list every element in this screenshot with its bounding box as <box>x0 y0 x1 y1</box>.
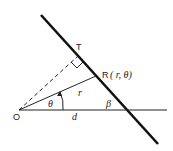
label-d: d <box>72 111 78 122</box>
label-beta: β <box>105 98 111 109</box>
label-theta: θ <box>48 98 53 109</box>
right-angle-marker <box>71 62 83 68</box>
label-T: T <box>76 42 82 52</box>
polar-line-diagram: T R ( r, θ) O d θ r β <box>0 0 173 151</box>
label-O: O <box>13 112 20 122</box>
radius-line <box>19 76 96 110</box>
thick-line <box>41 15 158 144</box>
label-R: R <box>102 70 109 80</box>
label-R-coords: ( r, θ) <box>110 69 133 81</box>
label-r: r <box>78 87 82 98</box>
